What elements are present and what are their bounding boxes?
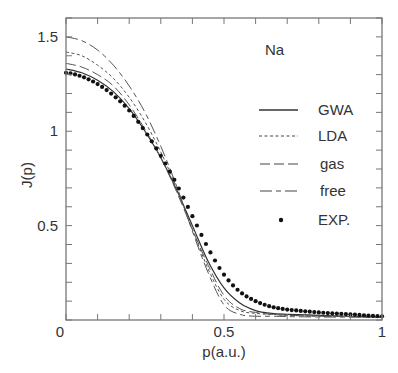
exp-data-point [299,309,303,313]
y-tick-label: 1 [50,122,58,139]
exp-data-point [326,311,330,315]
exp-data-point [371,314,375,318]
legend-item-gwa: GWA [259,101,353,118]
exp-data-point [344,312,348,316]
exp-data-point [235,288,239,292]
exp-data-point [308,310,312,314]
exp-data-point [267,304,271,308]
exp-data-point [136,120,140,124]
exp-data-point [276,306,280,310]
exp-data-point [366,313,370,317]
exp-data-point [353,313,357,317]
exp-data-point [145,132,149,136]
exp-data-point [317,310,321,314]
y-tick-label: 0.5 [37,217,58,234]
exp-data-point [231,283,235,287]
exp-data-point [263,303,267,307]
exp-data-point [109,91,113,95]
exp-data-point [290,308,294,312]
exp-data-point [73,72,77,76]
exp-data-point [141,126,145,130]
exp-data-point [213,258,217,262]
exp-data-point [208,250,212,254]
exp-data-point [281,307,285,311]
legend-label: EXP. [318,211,350,228]
exp-data-point [204,242,208,246]
exp-data-point [303,309,307,313]
exp-data-point [154,146,158,150]
exp-data-point [172,178,176,182]
exp-data-point [195,223,199,227]
element-annotation: Na [265,41,285,58]
legend: GWA LDA gas free EXP. [259,101,353,228]
exp-data-point [118,99,122,103]
exp-data-point [105,88,109,92]
exp-data-point [222,273,226,277]
legend-item-gas: gas [260,155,344,172]
legend-label: LDA [318,127,347,144]
exp-data-point [123,104,127,108]
exp-data-point [294,308,298,312]
legend-item-lda: LDA [259,127,347,144]
exp-data-point [199,233,203,237]
exp-data-point [362,313,366,317]
exp-data-point [249,297,253,301]
plot-curves [64,37,384,318]
exp-data-point [114,95,118,99]
exp-data-point [132,114,136,118]
legend-label: free [320,182,346,199]
exp-data-point [258,301,262,305]
exp-data-point [163,161,167,165]
exp-data-point [254,299,258,303]
exp-data-point [86,77,90,81]
y-axis-label: J(p) [18,162,35,188]
x-tick-label: 0.5 [214,323,235,340]
exp-data-point [190,214,194,218]
exp-data-point [181,195,185,199]
momentum-density-chart: 00.510.511.5 p(a.u.) J(p) Na GWA LDA gas… [0,0,398,373]
legend-swatch-dot [279,218,283,222]
exp-data-point [357,313,361,317]
y-tick-label: 1.5 [37,28,58,45]
exp-data-point [127,108,131,112]
legend-item-free: free [260,182,346,199]
exp-data-point [285,308,289,312]
exp-data-point [159,154,163,158]
exp-data-point [321,311,325,315]
exp-data-point [339,312,343,316]
exp-data-point [375,314,379,318]
exp-data-point [217,266,221,270]
legend-label: GWA [318,101,353,118]
exp-data-point [186,205,190,209]
exp-data-point [150,139,154,143]
exp-data-point [96,82,100,86]
exp-data-point [177,186,181,190]
exp-data-point [272,305,276,309]
x-tick-label: 1 [378,323,386,340]
exp-data-point [226,278,230,282]
exp-data-point [82,75,86,79]
exp-data-point [312,310,316,314]
exp-data-point [77,74,81,78]
x-axis-label: p(a.u.) [202,343,245,360]
x-tick-label: 0 [56,323,64,340]
exp-data-point [100,85,104,89]
legend-item-exp: EXP. [279,211,350,228]
exp-data-point [330,311,334,315]
exp-data-point [168,169,172,173]
exp-data-point [335,311,339,315]
exp-data-point [91,79,95,83]
exp-data-point [244,294,248,298]
exp-data-point [240,291,244,295]
legend-label: gas [320,155,344,172]
